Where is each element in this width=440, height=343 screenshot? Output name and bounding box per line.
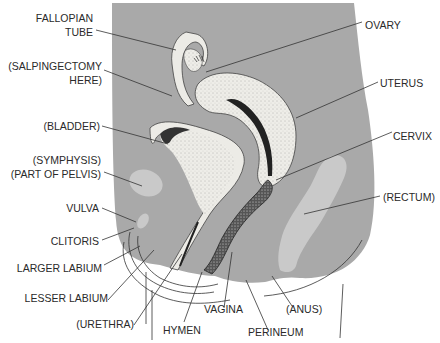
label-salpingectomy-2: HERE): [69, 74, 102, 86]
label-bladder: (BLADDER): [43, 120, 100, 132]
label-vulva: VULVA: [66, 202, 99, 214]
label-urethra: (URETHRA): [76, 318, 134, 330]
label-lesser-labium: LESSER LABIUM: [25, 292, 108, 304]
label-symphysis-1: (SYMPHYSIS): [33, 154, 101, 166]
label-perineum: PERINEUM: [248, 326, 303, 338]
label-hymen: HYMEN: [163, 324, 201, 336]
label-symphysis-2: (PART OF PELVIS): [11, 168, 101, 180]
label-ovary: OVARY: [365, 19, 401, 31]
label-cervix: CERVIX: [393, 130, 432, 142]
label-larger-labium: LARGER LABIUM: [17, 262, 102, 274]
label-rectum: (RECTUM): [383, 191, 435, 203]
label-clitoris: CLITORIS: [51, 235, 99, 247]
label-vagina: VAGINA: [204, 303, 243, 315]
label-fallopian-tube-1: FALLOPIAN: [36, 12, 93, 24]
anatomy-diagram: FALLOPIAN TUBE (SALPINGECTOMY HERE) (BLA…: [0, 0, 440, 343]
label-fallopian-tube-2: TUBE: [65, 26, 93, 38]
body-silhouette: [112, 3, 374, 283]
label-anus: (ANUS): [286, 303, 322, 315]
label-salpingectomy-1: (SALPINGECTOMY: [8, 60, 102, 72]
label-uterus: UTERUS: [380, 77, 423, 89]
